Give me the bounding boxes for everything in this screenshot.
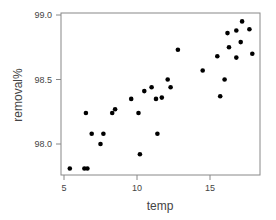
- data-point: [250, 51, 255, 56]
- data-point: [222, 77, 227, 82]
- plot-frame: [61, 13, 260, 175]
- y-tick-label: 98.0: [34, 139, 52, 149]
- data-point: [247, 27, 252, 32]
- data-point: [136, 111, 141, 116]
- x-tick-label: 10: [132, 183, 142, 193]
- data-point: [68, 166, 73, 171]
- y-axis-label: removal%: [11, 68, 25, 122]
- data-point: [138, 152, 143, 157]
- data-point: [215, 54, 220, 59]
- data-point: [234, 28, 239, 33]
- data-point: [225, 31, 230, 36]
- x-tick-label: 15: [205, 183, 215, 193]
- data-point: [165, 77, 170, 82]
- y-axis: 98.098.599.0: [34, 10, 61, 149]
- data-point: [218, 94, 223, 99]
- data-point: [154, 97, 159, 102]
- data-point: [149, 85, 154, 90]
- data-point: [129, 97, 134, 102]
- data-point: [85, 166, 90, 171]
- y-tick-label: 98.5: [34, 75, 52, 85]
- data-point: [110, 111, 115, 116]
- data-point: [84, 111, 89, 116]
- data-point: [155, 131, 160, 136]
- data-point: [200, 68, 205, 73]
- data-point: [227, 45, 232, 50]
- data-point: [168, 85, 173, 90]
- data-point: [98, 142, 103, 147]
- x-tick-label: 5: [61, 183, 66, 193]
- scatter-chart: 98.098.599.0 51015 temp removal%: [0, 0, 276, 220]
- data-points: [68, 19, 255, 171]
- data-point: [160, 95, 165, 100]
- x-axis: 51015: [61, 175, 215, 193]
- data-point: [142, 89, 147, 94]
- data-point: [113, 107, 118, 112]
- x-axis-label: temp: [147, 199, 174, 213]
- data-point: [176, 48, 181, 53]
- data-point: [89, 131, 94, 136]
- data-point: [101, 131, 106, 136]
- data-point: [240, 19, 245, 24]
- data-point: [238, 40, 243, 45]
- data-point: [234, 55, 239, 60]
- y-tick-label: 99.0: [34, 10, 52, 20]
